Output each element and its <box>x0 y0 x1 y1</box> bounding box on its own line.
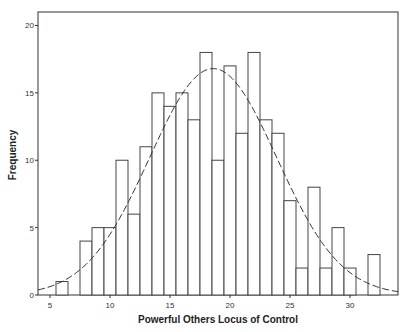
x-tick-label: 15 <box>166 301 175 310</box>
y-tick-label: 15 <box>25 89 34 98</box>
histogram-bar <box>200 52 212 295</box>
histogram-bar <box>212 160 224 295</box>
x-axis-ticks: 51015202530 <box>48 295 355 310</box>
histogram-bar <box>176 93 188 295</box>
histogram-bar <box>320 268 332 295</box>
y-tick-label: 20 <box>25 21 34 30</box>
histogram-bar <box>92 228 104 295</box>
histogram-bar <box>296 268 308 295</box>
histogram-bar <box>188 120 200 295</box>
x-tick-label: 25 <box>286 301 295 310</box>
histogram-bar <box>248 52 260 295</box>
y-tick-label: 10 <box>25 156 34 165</box>
y-tick-label: 0 <box>30 291 35 300</box>
y-tick-label: 5 <box>30 224 35 233</box>
histogram-bar <box>128 214 140 295</box>
histogram-bar <box>116 160 128 295</box>
x-tick-label: 20 <box>226 301 235 310</box>
histogram-bar <box>308 187 320 295</box>
histogram-bar <box>140 147 152 295</box>
histogram-bar <box>284 201 296 295</box>
histogram-bar <box>164 106 176 295</box>
histogram-bar <box>104 228 116 295</box>
histogram-bar <box>332 228 344 295</box>
histogram-bar <box>224 66 236 295</box>
histogram-bar <box>152 93 164 295</box>
y-axis-ticks: 05101520 <box>25 21 38 300</box>
x-tick-label: 30 <box>346 301 355 310</box>
x-axis-title: Powerful Others Locus of Control <box>138 314 298 325</box>
histogram-chart: 05101520 51015202530 Powerful Others Loc… <box>0 0 408 332</box>
x-tick-label: 10 <box>106 301 115 310</box>
y-axis-title: Frequency <box>7 129 18 180</box>
histogram-bar <box>368 255 380 295</box>
x-tick-label: 5 <box>48 301 53 310</box>
histogram-bar <box>80 241 92 295</box>
histogram-bar <box>236 133 248 295</box>
histogram-bar <box>260 120 272 295</box>
histogram-bar <box>272 133 284 295</box>
